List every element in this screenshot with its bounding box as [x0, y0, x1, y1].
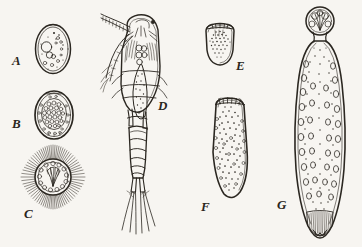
- figure-label-f: F: [201, 200, 210, 213]
- figure-label-b: B: [12, 117, 21, 130]
- figure-label-g: G: [277, 198, 287, 211]
- figure-f: [204, 94, 256, 206]
- figure-label-c: C: [24, 207, 33, 220]
- figure-c: [14, 144, 92, 212]
- figure-e-drawing: [200, 20, 240, 70]
- figure-e: [200, 20, 240, 70]
- figure-label-e: E: [236, 59, 245, 72]
- figure-label-d: D: [158, 99, 168, 112]
- figure-d-drawing: [100, 10, 172, 236]
- figure-b: [28, 88, 80, 142]
- figure-b-drawing: [28, 88, 80, 142]
- figure-c-drawing: [14, 144, 92, 212]
- figure-g-drawing: [286, 4, 354, 244]
- figure-label-a: A: [12, 54, 21, 67]
- figure-f-drawing: [204, 94, 256, 206]
- figure-d: [100, 10, 172, 236]
- figure-a-drawing: [28, 18, 78, 78]
- figure-a: [28, 18, 78, 78]
- figure-g: [286, 4, 354, 244]
- illustration-plate: A: [0, 0, 362, 247]
